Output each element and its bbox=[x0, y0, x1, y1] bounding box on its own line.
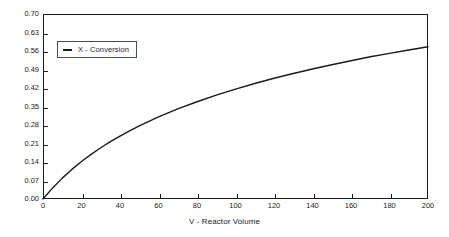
chart-container: 0.000.070.140.210.280.350.420.490.560.63… bbox=[0, 0, 449, 237]
x-tick-label: 100 bbox=[221, 202, 251, 210]
x-axis-title: V - Reactor Volume bbox=[0, 217, 449, 226]
x-tick-label: 60 bbox=[144, 202, 174, 210]
chart-legend: X - Conversion bbox=[57, 41, 137, 58]
x-tick-label: 80 bbox=[182, 202, 212, 210]
x-tick-label: 180 bbox=[375, 202, 405, 210]
x-tick-label: 200 bbox=[413, 202, 443, 210]
x-tick-label: 160 bbox=[336, 202, 366, 210]
legend-entry-label: X - Conversion bbox=[78, 45, 129, 54]
x-tick-label: 140 bbox=[298, 202, 328, 210]
legend-line-marker-icon bbox=[63, 49, 72, 51]
x-tick-label: 0 bbox=[28, 202, 58, 210]
x-tick-label: 20 bbox=[67, 202, 97, 210]
x-tick-label: 120 bbox=[259, 202, 289, 210]
x-axis-tick-labels: 020406080100120140160180200 bbox=[0, 0, 449, 237]
x-tick-label: 40 bbox=[105, 202, 135, 210]
